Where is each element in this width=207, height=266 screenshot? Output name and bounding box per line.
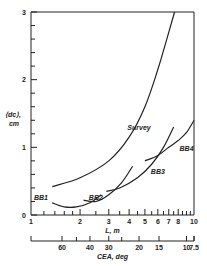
curve-label-bb1: BB1	[34, 194, 48, 201]
cea-tick-label: 60	[58, 244, 66, 251]
x-tick-label: 4	[127, 218, 131, 225]
x-tick-label: 3	[107, 218, 111, 225]
cea-axis-title: CEA, deg	[97, 253, 129, 261]
curve-label-survey: Survey	[127, 124, 151, 132]
y-tick-label: 1	[22, 144, 26, 151]
curve-bb4	[145, 120, 194, 161]
x-tick-label: 6	[156, 218, 160, 225]
y-tick-label: 2	[22, 76, 26, 83]
x-tick-label: 7	[167, 218, 171, 225]
curve-label-bb2: BB2	[89, 194, 103, 201]
curve-label-bb3: BB3	[151, 168, 165, 175]
curve-label-bb4: BB4	[180, 145, 194, 152]
y-tick-label: 0	[22, 212, 26, 219]
x-tick-label: 10	[190, 218, 198, 225]
curve-survey	[52, 12, 174, 187]
y-axis-unit: cm	[9, 120, 19, 127]
cea-tick-label: 15	[155, 244, 163, 251]
data-curves	[52, 12, 194, 207]
x-tick-label: 8	[176, 218, 180, 225]
x-axis-title: L, m	[105, 227, 119, 235]
y-tick-label: 3	[22, 9, 26, 16]
curve-bb3	[106, 127, 173, 191]
x-tick-label: 2	[78, 218, 82, 225]
x-tick-label: 5	[143, 218, 147, 225]
cea-tick-label: 7.5	[189, 244, 199, 251]
y-axis-title: ⟨dc⟩,	[5, 111, 21, 119]
cea-tick-label: 40	[86, 244, 94, 251]
cea-tick-label: 20	[135, 244, 143, 251]
x-tick-label: 1	[29, 218, 33, 225]
cea-tick-label: 30	[105, 244, 113, 251]
plot-axes	[31, 12, 194, 241]
chart-figure: 01231234567810L, m6040302015107.5CEA, de…	[0, 0, 207, 266]
